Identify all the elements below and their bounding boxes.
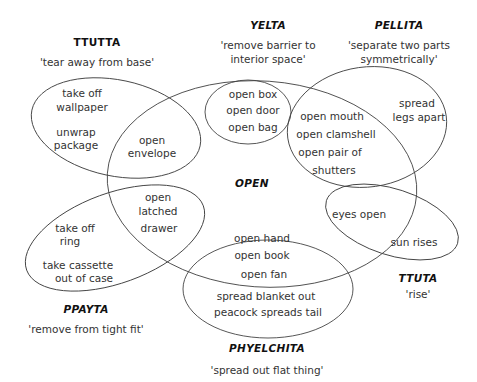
category-phyelchita-gloss: 'spread out flat thing': [211, 364, 324, 378]
ellipse-pellita: [279, 56, 454, 197]
item-take-off-wallpaper-2: wallpaper: [56, 101, 107, 114]
category-yelta-name: YELTA: [250, 19, 286, 31]
item-open-box: open box: [229, 88, 278, 101]
item-take-off-ring-2: ring: [60, 235, 81, 248]
item-take-cassette-out-of-case-1: take cassette: [43, 259, 113, 272]
category-phyelchita-name: PHYELCHITA: [229, 342, 305, 354]
item-open-envelope-1: open: [139, 134, 165, 147]
category-pellita-gloss-2: symmetrically': [360, 53, 437, 67]
item-open-bag: open bag: [228, 121, 277, 134]
item-open-latched-drawer-3: drawer: [141, 222, 178, 235]
category-pellita-gloss-1: 'separate two parts: [348, 39, 450, 53]
item-spread-legs-apart-2: legs apart: [393, 111, 446, 124]
item-spread-blanket-out: spread blanket out: [217, 290, 316, 303]
category-ttuta-gloss: 'rise': [406, 288, 431, 302]
item-take-off-ring-1: take off: [55, 222, 95, 235]
category-ttutta-gloss: 'tear away from base': [40, 56, 154, 70]
category-ppayta-gloss: 'remove from tight fit': [28, 323, 143, 337]
item-open-book: open book: [234, 249, 289, 262]
item-unwrap-package-2: package: [54, 139, 98, 152]
venn-diagram: TTUTTA 'tear away from base' YELTA 'remo…: [0, 0, 477, 382]
item-open-hand: open hand: [234, 232, 290, 245]
ellipse-ttutta: [22, 63, 210, 193]
item-unwrap-package-1: unwrap: [56, 126, 95, 139]
category-pellita-name: PELLITA: [375, 19, 424, 31]
item-open-latched-drawer-2: latched: [138, 205, 177, 218]
item-spread-legs-apart-1: spread: [399, 97, 435, 110]
category-ttutta-name: TTUTTA: [74, 36, 121, 48]
item-open-clamshell: open clamshell: [296, 128, 375, 141]
item-open-envelope-2: envelope: [128, 147, 176, 160]
item-take-cassette-out-of-case-2: out of case: [55, 272, 113, 285]
item-open-pair-of-shutters-2: shutters: [312, 164, 355, 177]
ellipse-ppayta: [11, 164, 218, 313]
item-open-mouth: open mouth: [300, 110, 364, 123]
item-open-latched-drawer-1: open: [145, 191, 171, 204]
item-open-door: open door: [226, 104, 279, 117]
item-take-off-wallpaper-1: take off: [62, 87, 102, 100]
item-open-pair-of-shutters-1: open pair of: [298, 146, 361, 159]
category-yelta-gloss-1: 'remove barrier to: [220, 39, 315, 53]
category-ttuta-name: TTUTA: [398, 272, 437, 284]
item-eyes-open: eyes open: [332, 208, 386, 221]
item-sun-rises: sun rises: [391, 236, 438, 249]
central-concept-open: OPEN: [235, 177, 269, 189]
item-peacock-spreads-tail: peacock spreads tail: [214, 306, 322, 319]
category-ppayta-name: PPAYTA: [63, 303, 108, 315]
category-yelta-gloss-2: interior space': [230, 53, 305, 67]
item-open-fan: open fan: [241, 268, 287, 281]
